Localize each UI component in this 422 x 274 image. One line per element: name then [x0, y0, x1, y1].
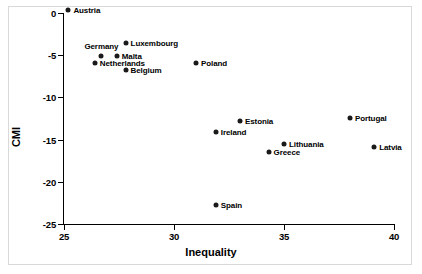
x-tick-mark [394, 225, 395, 230]
data-point[interactable] [92, 60, 97, 65]
data-point-label: Ireland [221, 128, 247, 137]
y-tick-mark [58, 224, 63, 225]
y-tick-mark [58, 13, 63, 14]
data-point[interactable] [282, 141, 287, 146]
data-point[interactable] [213, 130, 218, 135]
data-point[interactable] [123, 40, 128, 45]
y-tick-label: -25 [28, 219, 56, 230]
y-tick-mark [58, 55, 63, 56]
data-point-label: Belgium [131, 65, 162, 74]
data-point-label: Estonia [245, 117, 273, 126]
data-point-label: Greece [274, 148, 301, 157]
data-point[interactable] [238, 119, 243, 124]
x-tick-label: 25 [59, 231, 69, 242]
y-tick-mark [58, 140, 63, 141]
data-point-label: Germany [84, 42, 118, 51]
data-point-label: Austria [73, 5, 100, 14]
data-point-label: Portugal [355, 113, 387, 122]
x-axis-title: Inequality [0, 246, 422, 258]
y-tick-label: -10 [28, 92, 56, 103]
data-point-label: Poland [201, 58, 227, 67]
y-tick-label: 0 [28, 8, 56, 19]
y-tick-label: -5 [28, 50, 56, 61]
x-tick-mark [174, 225, 175, 230]
x-tick-label: 30 [169, 231, 179, 242]
y-tick-mark [58, 182, 63, 183]
x-axis-line [63, 224, 395, 225]
y-tick-label: -20 [28, 176, 56, 187]
x-tick-mark [64, 225, 65, 230]
data-point-label: Luxembourg [131, 38, 178, 47]
data-point-label: Spain [221, 200, 242, 209]
data-point[interactable] [348, 115, 353, 120]
x-tick-label: 40 [389, 231, 399, 242]
y-tick-label: -15 [28, 134, 56, 145]
data-point-label: Latvia [379, 143, 402, 152]
data-point[interactable] [66, 7, 71, 12]
y-axis-title: CMI [10, 127, 22, 147]
data-point[interactable] [194, 60, 199, 65]
y-tick-mark [58, 97, 63, 98]
x-tick-label: 35 [279, 231, 289, 242]
data-point[interactable] [213, 202, 218, 207]
x-tick-mark [284, 225, 285, 230]
data-point[interactable] [266, 150, 271, 155]
data-point[interactable] [123, 67, 128, 72]
data-point[interactable] [372, 145, 377, 150]
scatter-plot-figure: CMI Inequality 0-5-10-15-20-2525303540Au… [0, 0, 422, 274]
